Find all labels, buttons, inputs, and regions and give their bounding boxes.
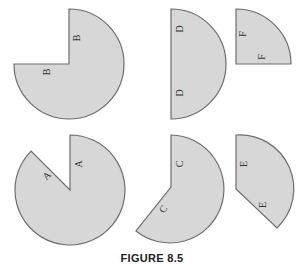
shape-d-label-2: D	[174, 89, 185, 96]
figure-caption: FIGURE 8.5	[0, 252, 304, 264]
shape-c-label-1: C	[174, 160, 185, 167]
shape-b: B B	[14, 9, 124, 119]
figure-diagram: B B D D F F A A C C E E	[0, 0, 304, 268]
shape-e-label-2: E	[257, 202, 268, 208]
shape-d: D D	[171, 9, 226, 119]
shape-a: A A	[15, 135, 125, 245]
shape-d-label-1: D	[174, 25, 185, 32]
shape-f-label-2: F	[256, 54, 267, 60]
shape-e: E E	[236, 135, 294, 228]
shape-a-label-1: A	[73, 160, 84, 168]
shape-b-label-1: B	[71, 34, 82, 41]
shape-f-label-1: F	[237, 31, 248, 37]
shape-f: F F	[236, 9, 291, 64]
shape-b-label-2: B	[41, 68, 52, 75]
shape-e-label-1: E	[238, 161, 249, 167]
shape-c: C C	[136, 135, 224, 243]
